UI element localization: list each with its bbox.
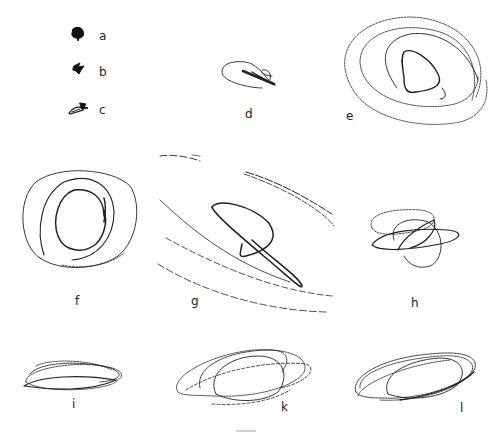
panel-label-h: h xyxy=(411,297,419,309)
panel-label-l: l xyxy=(460,402,463,414)
panel-label-b: b xyxy=(99,66,107,78)
caption-fragment xyxy=(236,430,256,432)
panel-e-trajectory xyxy=(345,17,487,124)
panel-label-e: e xyxy=(346,110,353,122)
panel-l-trajectory xyxy=(355,353,475,400)
panel-g-trajectory xyxy=(158,155,334,312)
panel-label-a: a xyxy=(99,30,106,42)
panel-h-trajectory xyxy=(371,210,459,268)
panel-label-f: f xyxy=(75,295,79,307)
panel-label-g: g xyxy=(191,295,199,307)
panel-a-trajectory xyxy=(72,27,84,41)
panel-b-trajectory xyxy=(73,63,84,74)
panel-label-c: c xyxy=(99,104,106,116)
figure-canvas xyxy=(0,0,502,436)
panel-label-k: k xyxy=(281,401,288,413)
panel-d-trajectory xyxy=(222,62,275,88)
panel-label-d: d xyxy=(245,108,253,120)
panel-f-trajectory xyxy=(23,171,137,268)
trajectory-figure: a b c d e f g h i k l xyxy=(0,0,502,436)
panel-label-i: i xyxy=(72,398,75,410)
panel-i-trajectory xyxy=(24,361,121,390)
panel-k-trajectory xyxy=(177,350,311,405)
panel-c-trajectory xyxy=(69,103,88,114)
